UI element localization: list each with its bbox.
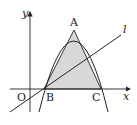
point-a-label: A — [69, 16, 79, 29]
point-b-label: B — [46, 91, 54, 104]
origin-label: O — [17, 91, 26, 104]
diagram: y x O A B C l — [0, 0, 137, 125]
triangle-abc — [44, 30, 101, 89]
line-l-label: l — [123, 23, 127, 36]
y-axis-label: y — [21, 7, 29, 20]
x-axis-label: x — [123, 90, 130, 103]
point-c-label: C — [92, 91, 100, 104]
